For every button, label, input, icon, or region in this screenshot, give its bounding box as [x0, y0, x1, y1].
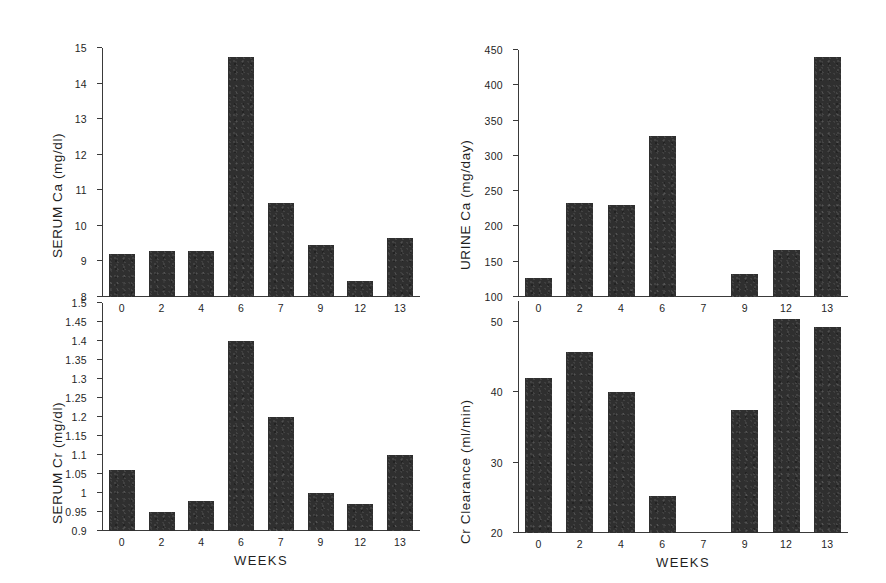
- y-axis-tick: [513, 49, 518, 50]
- bar[interactable]: [228, 341, 254, 531]
- x-axis-tick-label: 0: [119, 536, 125, 548]
- y-axis-tick-label: 1.45: [65, 316, 87, 328]
- y-axis-tick-label: 450: [485, 44, 503, 56]
- y-axis-tick-label: 12: [75, 149, 87, 161]
- bar-slot: 12: [766, 50, 807, 297]
- y-axis-tick-label: 13: [75, 113, 87, 125]
- bar[interactable]: [773, 250, 800, 297]
- bar[interactable]: [149, 251, 175, 297]
- bar[interactable]: [814, 327, 841, 533]
- y-axis-tick-label: 9: [81, 255, 87, 267]
- x-axis-tick-label: 2: [159, 536, 165, 548]
- y-axis-tick: [97, 260, 102, 261]
- x-axis-tick-label: 13: [821, 538, 833, 550]
- bar-slot: 9: [301, 48, 341, 297]
- bar[interactable]: [188, 251, 214, 297]
- plot-area-cr-clearance: 0246791213 20304050: [518, 301, 848, 533]
- bar[interactable]: [525, 378, 552, 533]
- y-axis-tick: [513, 190, 518, 191]
- x-axis-tick-label: 2: [577, 538, 583, 550]
- bar[interactable]: [773, 319, 800, 533]
- bar-slot: 4: [601, 50, 642, 297]
- bar[interactable]: [566, 352, 593, 533]
- y-axis-tick-label: 350: [485, 115, 503, 127]
- bar-slot: 7: [683, 50, 724, 297]
- chart-panel-cr-clearance: Cr Clearance (ml/min) 0246791213 2030405…: [448, 296, 868, 581]
- bar[interactable]: [347, 281, 373, 297]
- y-axis-title-urine-ca: URINE Ca (mg/day): [458, 140, 473, 270]
- bar-slot: 0: [518, 301, 559, 533]
- bar[interactable]: [387, 455, 413, 531]
- bar[interactable]: [649, 496, 676, 533]
- bar[interactable]: [608, 392, 635, 533]
- y-axis-tick: [97, 473, 102, 474]
- bar[interactable]: [109, 470, 135, 531]
- bar-slot: 12: [341, 303, 381, 531]
- bar-slot: 0: [102, 48, 142, 297]
- y-axis-tick: [97, 302, 102, 303]
- plot-area-urine-ca: 0246791213 100150200250300350400450: [518, 50, 848, 297]
- bar[interactable]: [308, 245, 334, 297]
- y-axis-tick: [513, 84, 518, 85]
- bar[interactable]: [308, 493, 334, 531]
- y-axis-title-serum-cr: SERUM Cr (mg/dl): [50, 402, 65, 524]
- bar[interactable]: [149, 512, 175, 531]
- bar[interactable]: [228, 57, 254, 297]
- y-axis-tick: [97, 118, 102, 119]
- bar[interactable]: [731, 410, 758, 533]
- bar-slot: 6: [642, 50, 683, 297]
- y-axis-tick-label: 250: [485, 185, 503, 197]
- bar[interactable]: [268, 203, 294, 297]
- x-axis-tick-label: 7: [701, 538, 707, 550]
- bar-slot: 2: [559, 301, 600, 533]
- y-axis-tick: [97, 321, 102, 322]
- x-axis-tick-label: 12: [780, 538, 792, 550]
- x-axis-tick-label: 6: [238, 536, 244, 548]
- bar-slot: 0: [102, 303, 142, 531]
- bar-slot: 7: [683, 301, 724, 533]
- y-axis-tick-label: 30: [491, 457, 503, 469]
- bar-slot: 12: [766, 301, 807, 533]
- bar[interactable]: [525, 278, 552, 297]
- bar-slot: 13: [807, 50, 848, 297]
- y-axis-tick-label: 1.05: [65, 468, 87, 480]
- bar[interactable]: [649, 136, 676, 297]
- y-axis-tick: [97, 397, 102, 398]
- y-axis-tick: [97, 83, 102, 84]
- x-axis-tick-label: 9: [318, 536, 324, 548]
- chart-panel-serum-ca: SERUM Ca (mg/dl) 0246791213 891011121314…: [40, 20, 440, 300]
- bar[interactable]: [347, 504, 373, 531]
- y-axis-tick-label: 20: [491, 527, 503, 539]
- bar-slot: 9: [301, 303, 341, 531]
- bar[interactable]: [268, 417, 294, 531]
- bar[interactable]: [608, 205, 635, 297]
- y-axis-tick-label: 0.95: [65, 506, 87, 518]
- y-axis-tick: [97, 416, 102, 417]
- bar[interactable]: [566, 203, 593, 297]
- bar-slot: 7: [261, 303, 301, 531]
- bar[interactable]: [814, 57, 841, 297]
- x-axis-tick-label: 4: [618, 538, 624, 550]
- x-axis-tick-label: 6: [659, 538, 665, 550]
- y-axis-tick: [513, 391, 518, 392]
- y-axis-tick-label: 1.15: [65, 430, 87, 442]
- y-axis-tick-label: 10: [75, 220, 87, 232]
- x-axis-title-cr-clearance: WEEKS: [518, 555, 848, 570]
- bar[interactable]: [188, 501, 214, 531]
- bar-series-serum-cr: 0246791213: [102, 303, 420, 531]
- y-axis-tick: [97, 340, 102, 341]
- bar-series-cr-clearance: 0246791213: [518, 301, 848, 533]
- bar[interactable]: [109, 254, 135, 297]
- bar-slot: 6: [221, 48, 261, 297]
- y-axis-tick: [97, 378, 102, 379]
- figure-canvas: SERUM Ca (mg/dl) 0246791213 891011121314…: [0, 0, 886, 583]
- y-axis-tick: [97, 189, 102, 190]
- y-axis-tick: [97, 154, 102, 155]
- bar-slot: 9: [724, 50, 765, 297]
- y-axis-tick: [97, 435, 102, 436]
- bar-slot: 13: [380, 303, 420, 531]
- bar[interactable]: [731, 274, 758, 297]
- y-axis-tick: [97, 359, 102, 360]
- y-axis-tick-label: 400: [485, 79, 503, 91]
- bar[interactable]: [387, 238, 413, 297]
